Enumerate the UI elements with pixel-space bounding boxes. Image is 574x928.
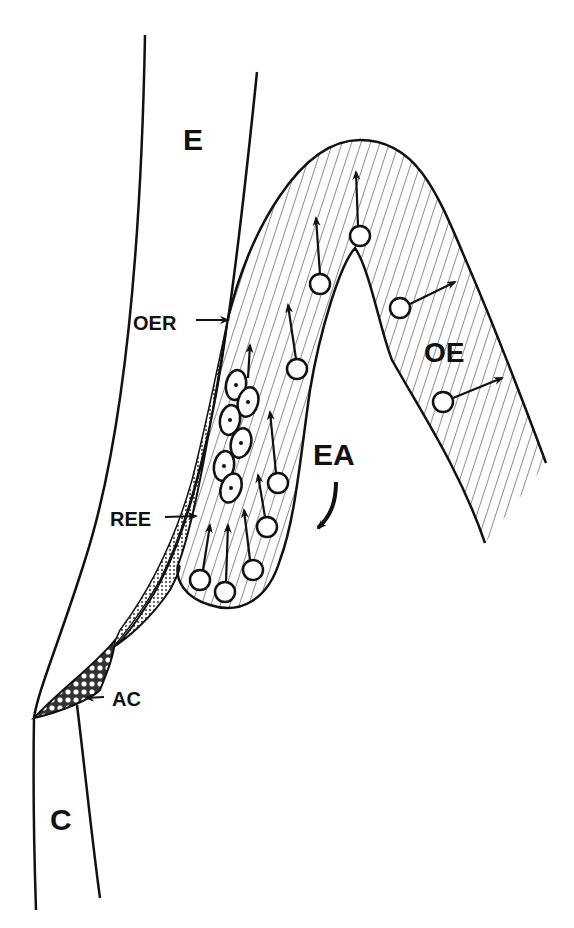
label-EA: EA <box>313 438 355 471</box>
label-REE: REE <box>110 508 151 530</box>
label-OER: OER <box>133 312 177 334</box>
attached-cuticle <box>34 640 115 718</box>
label-AC: AC <box>112 688 141 710</box>
enamel-outer-line <box>34 35 145 718</box>
tooth-eruption-diagram: E OER OE EA REE AC C <box>0 0 574 928</box>
label-OE: OE <box>424 337 464 368</box>
cementum-right-line <box>77 705 100 898</box>
cementum-left-line <box>34 718 36 910</box>
ac-pointer <box>86 697 104 698</box>
label-C: C <box>50 803 72 836</box>
label-E: E <box>183 123 203 156</box>
eruption-arrow-icon <box>318 482 336 528</box>
ree-pointer <box>165 516 196 517</box>
